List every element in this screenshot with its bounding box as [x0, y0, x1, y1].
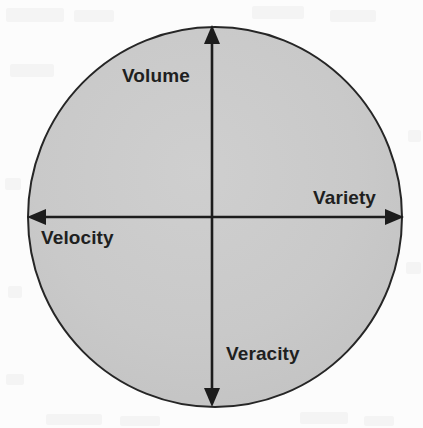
diagram-canvas: Volume Variety Velocity Veracity — [0, 0, 423, 428]
label-velocity: Velocity — [41, 228, 114, 247]
label-veracity: Veracity — [226, 344, 300, 363]
quadrant-diagram — [0, 0, 423, 428]
label-volume: Volume — [122, 66, 190, 85]
label-variety: Variety — [313, 188, 376, 207]
